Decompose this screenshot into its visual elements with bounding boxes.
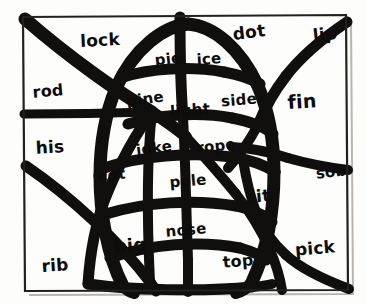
word-cell-nose[interactable]: nose	[165, 219, 207, 240]
word-cell-dot[interactable]: dot	[232, 20, 267, 44]
word-cell-rib[interactable]: rib	[41, 254, 69, 276]
word-cell-pick[interactable]: pick	[294, 236, 336, 259]
word-cell-pole[interactable]: pole	[169, 170, 208, 191]
web-stroke	[252, 284, 272, 287]
word-cell-fin[interactable]: fin	[287, 89, 317, 113]
word-cell-big[interactable]: big	[113, 233, 147, 256]
word-cell-side[interactable]: side	[220, 89, 257, 110]
word-cell-pie[interactable]: pie	[154, 49, 182, 70]
word-cell-sit[interactable]: sit	[245, 185, 271, 207]
word-cell-top[interactable]: top	[222, 250, 254, 272]
word-cell-lip[interactable]: lip	[312, 23, 338, 45]
word-cell-sob[interactable]: sob	[315, 161, 348, 183]
word-cell-cot[interactable]: cot	[98, 164, 127, 185]
word-cell-light[interactable]: light	[169, 100, 210, 121]
word-cell-his[interactable]: his	[35, 136, 65, 157]
word-cell-rod[interactable]: rod	[32, 80, 64, 102]
web-stroke	[24, 112, 152, 114]
web-stroke	[148, 112, 152, 282]
word-cell-ice[interactable]: ice	[196, 49, 222, 69]
word-cell-lock[interactable]: lock	[80, 29, 121, 51]
web-stroke	[88, 284, 252, 290]
puzzle-page: lockdotlippieicerodpinelightsidefinhisjo…	[0, 0, 367, 305]
